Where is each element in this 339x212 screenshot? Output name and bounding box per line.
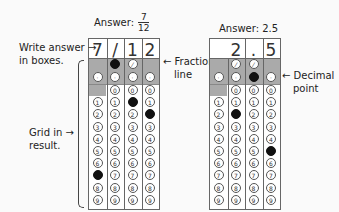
digit-bubble-0: 0 — [128, 85, 138, 95]
digit-bubble-5: 5 — [128, 146, 138, 156]
digit-bubble-6: 6 — [110, 158, 120, 168]
digit-bubble-cell: 3 — [228, 121, 245, 133]
fraction-numerator: 7 — [138, 12, 149, 23]
digit-bubble-3: 3 — [128, 122, 138, 132]
digit-bubble-5: 5 — [110, 146, 120, 156]
digit-bubble-1: 1 — [145, 97, 155, 107]
digit-bubble-cell: 3 — [263, 121, 280, 133]
digit-bubble-2: 2 — [214, 109, 224, 119]
digit-bubble-8: 8 — [231, 183, 241, 193]
digit-bubble-cell: 8 — [89, 182, 106, 194]
digit-bubble-cell: 4 — [263, 133, 280, 145]
digit-bubble-0: 0 — [231, 85, 241, 95]
digit-bubble-cell: 4 — [124, 133, 141, 145]
digit-bubble-cell: 3 — [124, 121, 141, 133]
digit-bubble-cell: 9 — [263, 194, 280, 206]
digit-bubble-cell: 8 — [107, 182, 124, 194]
digit-bubble-cell: 4 — [210, 133, 227, 145]
answer-char: 2 — [142, 40, 159, 60]
digit-bubble-cell: 1 — [263, 96, 280, 108]
digit-bubble-0: 0 — [249, 85, 259, 95]
decimal-bubble: · — [128, 72, 138, 82]
digit-bubble-cell: 6 — [142, 157, 159, 169]
digit-bubble-8: 8 — [93, 183, 103, 193]
decimal-bubble-cell: · — [228, 70, 245, 84]
decimal-bubble-cell: · — [107, 70, 124, 84]
digit-bubble-cell: 9 — [107, 194, 124, 206]
slash-bubble-cell: ⁄ — [245, 58, 262, 70]
digit-bubble-cell: 5 — [142, 145, 159, 157]
digit-bubble-cell: 1 — [245, 96, 262, 108]
digit-bubble-3: 3 — [249, 122, 259, 132]
callout-write-answer-line2: in boxes. — [19, 55, 64, 67]
digit-bubble-cell: 7 — [124, 169, 141, 181]
digit-bubble-9: 9 — [145, 195, 155, 205]
digit-bubble-cell: 4 — [228, 133, 245, 145]
callout-decimal-point: ← Decimal — [282, 70, 334, 82]
slash-bubble-cell: ⁄ — [124, 58, 141, 70]
digit-bubble-1: 1 — [93, 97, 103, 107]
digit-bubble-cell: 8 — [124, 182, 141, 194]
digit-bubble-cell: 0 — [263, 84, 280, 96]
digit-bubble-cell: 8 — [263, 182, 280, 194]
answer-title-fraction: Answer:712 — [94, 12, 149, 33]
digit-bubble-cell: 8 — [142, 182, 159, 194]
digit-bubble-cell: 0 — [107, 84, 124, 96]
digit-bubble-cell: 1 — [107, 96, 124, 108]
digit-bubble-cell: 5 — [263, 145, 280, 157]
digit-bubble-6: 6 — [266, 158, 276, 168]
digit-bubble-9: 9 — [110, 195, 120, 205]
digit-bubble-cell: 1 — [89, 96, 106, 108]
digit-bubble-cell: 9 — [210, 194, 227, 206]
digit-bubble-cell: 2 — [89, 108, 106, 120]
digit-bubble-4: 4 — [110, 134, 120, 144]
digit-bubble-cell: 6 — [124, 157, 141, 169]
digit-bubble-1: 1 — [214, 97, 224, 107]
digit-bubble-0: 0 — [145, 85, 155, 95]
digit-bubble-cell: 9 — [142, 194, 159, 206]
digit-bubble-4: 4 — [145, 134, 155, 144]
digit-bubble-5: 5 — [214, 146, 224, 156]
digit-bubble-cell: 3 — [142, 121, 159, 133]
digit-bubble-cell: 7 — [107, 169, 124, 181]
digit-bubble-cell: 2 — [107, 108, 124, 120]
gray-first-col-zero — [89, 84, 106, 96]
callout-write-answer: Write answer → — [19, 42, 96, 54]
digit-bubble-3: 3 — [231, 122, 241, 132]
digit-bubble-2: 2 — [249, 109, 259, 119]
digit-bubble-8: 8 — [266, 183, 276, 193]
digit-bubble-9: 9 — [266, 195, 276, 205]
digit-bubble-8: 8 — [214, 183, 224, 193]
digit-bubble-cell: 2 — [142, 108, 159, 120]
digit-bubble-5: 5 — [231, 146, 241, 156]
digit-bubble-2: 2 — [145, 109, 155, 119]
digit-bubble-cell: 9 — [245, 194, 262, 206]
callout-grid-in: Grid in → — [29, 127, 74, 139]
answer-char: . — [245, 40, 262, 60]
digit-bubble-6: 6 — [231, 158, 241, 168]
digit-bubble-cell: 2 — [124, 108, 141, 120]
digit-bubble-7: 7 — [145, 170, 155, 180]
digit-bubble-6: 6 — [128, 158, 138, 168]
decimal-bubble: · — [93, 72, 103, 82]
decimal-bubble-cell: · — [89, 70, 106, 84]
digit-bubble-cell: 0 — [124, 84, 141, 96]
digit-bubble-cell: 1 — [124, 96, 141, 108]
decimal-bubble: · — [110, 72, 120, 82]
digit-bubble-cell: 4 — [245, 133, 262, 145]
digit-bubble-2: 2 — [128, 109, 138, 119]
answer-char: 1 — [124, 40, 141, 60]
digit-bubble-3: 3 — [214, 122, 224, 132]
digit-bubble-cell: 0 — [245, 84, 262, 96]
digit-bubble-cell: 8 — [228, 182, 245, 194]
digit-bubble-3: 3 — [266, 122, 276, 132]
digit-bubble-0: 0 — [110, 85, 120, 95]
digit-bubble-7: 7 — [110, 170, 120, 180]
callout-fraction-line-line2: line — [174, 69, 192, 81]
digit-bubble-5: 5 — [249, 146, 259, 156]
digit-bubble-cell: 1 — [142, 96, 159, 108]
digit-bubble-4: 4 — [231, 134, 241, 144]
digit-bubble-cell: 4 — [89, 133, 106, 145]
digit-bubble-7: 7 — [249, 170, 259, 180]
digit-bubble-cell: 3 — [89, 121, 106, 133]
